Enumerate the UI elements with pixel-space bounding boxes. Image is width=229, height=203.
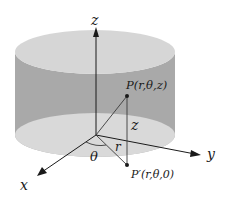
z-axis-label: z	[90, 12, 99, 28]
y-axis-label: y	[206, 146, 216, 162]
point-P-prime-label: P′(r,θ,0)	[130, 168, 174, 181]
height-label: z	[130, 117, 139, 133]
point-P-label: P(r,θ,z)	[125, 78, 167, 92]
x-axis-label: x	[20, 177, 28, 193]
cylindrical-coordinates-diagram: z y x P(r,θ,z) P′(r,θ,0) z r θ	[0, 0, 229, 203]
point-P-prime	[125, 163, 129, 167]
y-axis-arrow-icon	[190, 150, 201, 157]
x-axis-arrow-icon	[37, 167, 47, 176]
theta-label: θ	[90, 149, 98, 164]
point-P	[125, 94, 129, 98]
